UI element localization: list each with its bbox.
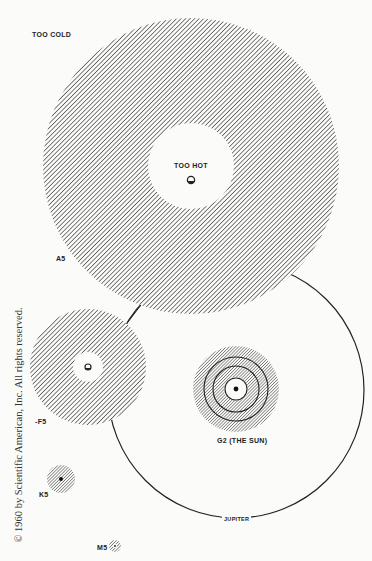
too-cold-label: TOO COLD: [32, 31, 71, 38]
k5-zone: [47, 465, 75, 493]
m5-zone: [109, 540, 121, 552]
m5-star-icon: [114, 545, 116, 547]
habitable-zone-diagram: [0, 0, 372, 561]
g2-zone: [193, 346, 279, 432]
f5-label: -F5: [35, 418, 46, 425]
sun-icon: [234, 387, 239, 392]
g2-label: G2 (THE SUN): [217, 437, 267, 444]
k5-label: K5: [39, 491, 49, 498]
a5-label: A5: [56, 255, 66, 262]
k5-star-icon: [59, 477, 63, 481]
f5-zone: [30, 309, 146, 425]
jupiter-label: JUPITER: [222, 516, 251, 522]
m5-label: M5: [97, 544, 107, 551]
copyright-notice: © 1960 by Scientific American, Inc. All …: [13, 307, 24, 542]
too-hot-label: TOO HOT: [174, 162, 208, 169]
